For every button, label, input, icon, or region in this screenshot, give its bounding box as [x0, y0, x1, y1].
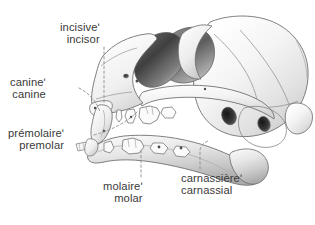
label-molar-en: molar — [103, 192, 143, 204]
maxillary-foramen — [180, 147, 183, 150]
label-incisor-fr: incisiveʹ — [60, 21, 100, 33]
label-canine-fr: canineʹ — [10, 76, 46, 88]
upper-carnassial — [139, 106, 160, 124]
illustration-canvas: incisiveʹ incisor canineʹ canine prémola… — [0, 0, 315, 225]
label-premolar: prémolaireʹ premolar — [8, 127, 64, 152]
label-incisor-en: incisor — [60, 33, 100, 45]
skull-diagram — [0, 0, 315, 225]
label-premolar-fr: prémolaireʹ — [8, 127, 64, 139]
label-molar: molaireʹ molar — [103, 180, 143, 205]
label-carnassial-en: carnassial — [181, 184, 242, 196]
upper-premolar-1 — [116, 110, 122, 122]
mental-foramen — [136, 80, 139, 83]
label-molar-fr: molaireʹ — [103, 180, 143, 192]
infraorbital-foramen — [123, 74, 128, 78]
label-canine-en: canine — [10, 88, 46, 100]
label-premolar-en: premolar — [8, 139, 64, 151]
label-canine: canineʹ canine — [10, 76, 46, 101]
premaxilla-foramen — [94, 107, 96, 109]
upper-molar — [161, 107, 176, 118]
skull-foramen-rear — [204, 88, 206, 90]
mandibular-foramen — [158, 146, 161, 149]
occipital-condyle — [285, 103, 312, 134]
label-carnassial: carnassièreʹ carnassial — [181, 172, 242, 197]
label-incisor: incisiveʹ incisor — [60, 21, 100, 46]
label-carnassial-fr: carnassièreʹ — [181, 172, 242, 184]
